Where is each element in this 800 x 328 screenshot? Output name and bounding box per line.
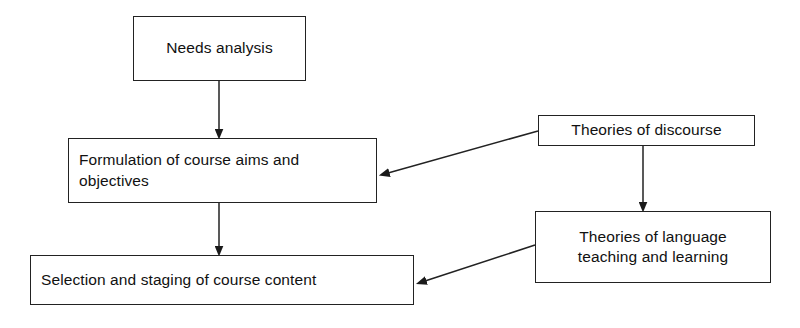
node-formulation-label: Formulation of course aims and objective… [69, 150, 376, 190]
node-needs-analysis-label: Needs analysis [134, 38, 305, 58]
node-needs-analysis: Needs analysis [133, 16, 306, 81]
node-theories-discourse-label: Theories of discourse [539, 120, 754, 140]
node-theories-of-language-teaching-and-learning: Theories of language teaching and learni… [535, 211, 771, 283]
edge-discourse-to-formulation [388, 131, 538, 173]
node-selection-label: Selection and staging of course content [31, 270, 413, 290]
node-selection-and-staging-of-course-content: Selection and staging of course content [30, 255, 414, 305]
flowchart-diagram: Needs analysis Formulation of course aim… [0, 0, 800, 328]
node-theories-language-label: Theories of language teaching and learni… [536, 227, 770, 267]
edge-language-to-selection [425, 245, 535, 281]
node-formulation-of-course-aims-and-objectives: Formulation of course aims and objective… [68, 138, 377, 203]
node-theories-of-discourse: Theories of discourse [538, 115, 755, 146]
